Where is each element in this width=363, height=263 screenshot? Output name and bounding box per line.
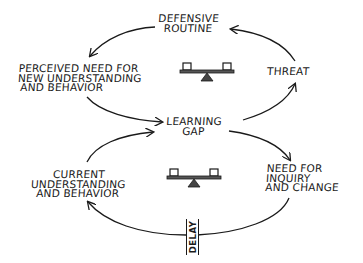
node-learning-gap: LEARNING GAP: [165, 117, 222, 136]
node-defensive-routine: DEFENSIVE ROUTINE: [157, 14, 219, 33]
seesaw-icon: [180, 63, 234, 81]
causal-loop-diagram: DEFENSIVE ROUTINE PERCEIVED NEED FOR NEW…: [0, 0, 363, 263]
node-perceived-need: PERCEIVED NEED FOR NEW UNDERSTANDING AND…: [17, 64, 143, 93]
node-label-line: AND BEHAVIOR: [17, 83, 141, 93]
node-label-line: AND CHANGE: [265, 183, 339, 193]
node-label-line: AND BEHAVIOR: [30, 189, 125, 199]
node-threat: THREAT: [267, 67, 310, 77]
arrow-gap-to-inquiry: [229, 131, 290, 160]
delay-label: DELAY: [188, 221, 198, 254]
node-current-understanding: CURRENT UNDERSTANDING AND BEHAVIOR: [30, 170, 127, 199]
delay-marker: DELAY: [186, 219, 199, 255]
arrow-threat-to-defensive: [231, 29, 295, 61]
node-label-line: GAP: [165, 127, 221, 137]
node-need-for-inquiry: NEED FOR INQUIRY AND CHANGE: [265, 164, 340, 193]
arrow-defensive-to-perceived: [90, 27, 155, 56]
arrow-perceived-to-gap: [87, 97, 162, 122]
arrow-gap-to-threat: [243, 84, 295, 120]
node-label-line: ROUTINE: [157, 24, 218, 34]
node-label-line: THREAT: [267, 67, 310, 77]
arrow-current-to-gap: [87, 132, 153, 162]
seesaw-icon: [167, 169, 221, 187]
